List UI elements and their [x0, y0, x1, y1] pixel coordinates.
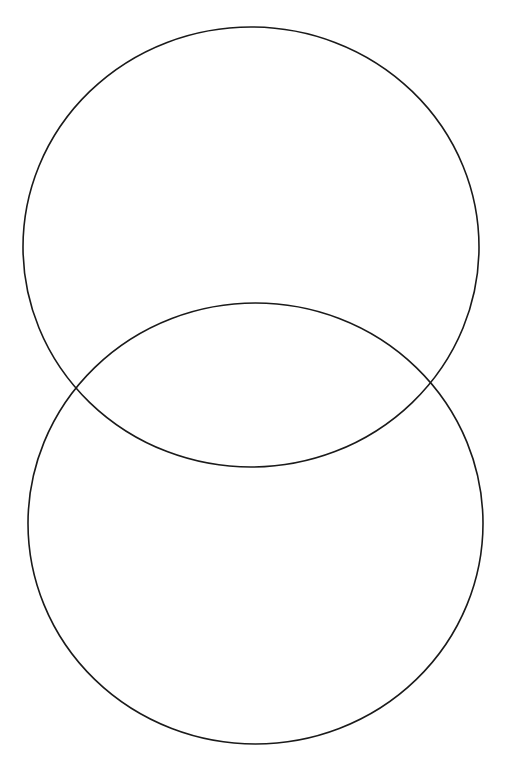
- venn-diagram-canvas: [0, 0, 510, 771]
- top-circle: [23, 27, 479, 467]
- bottom-circle: [28, 303, 483, 744]
- venn-diagram: [0, 0, 510, 771]
